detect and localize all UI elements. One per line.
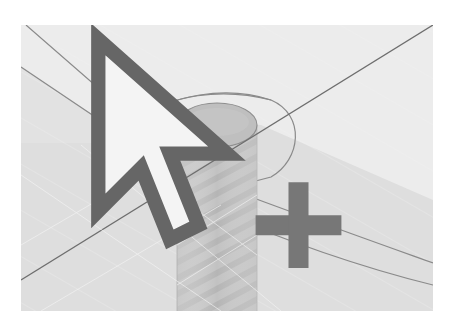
app-window [0, 0, 450, 326]
3d-viewport[interactable] [21, 25, 433, 311]
move-cursor-icon [21, 25, 433, 311]
